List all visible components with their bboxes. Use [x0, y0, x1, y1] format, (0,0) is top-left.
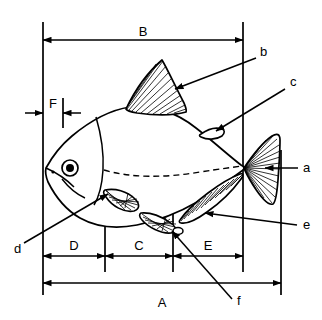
fish-measurement-diagram: B F D C E A a b c d e f	[0, 0, 322, 320]
fish-eye-pupil	[66, 164, 74, 172]
dimension-D: D	[43, 238, 105, 256]
figure-canvas: B F D C E A a b c d e f	[0, 0, 322, 320]
fish-nostril	[51, 170, 54, 173]
dimension-F: F	[25, 96, 81, 113]
caudal-fin	[244, 134, 280, 204]
callout-label-c: c	[290, 74, 297, 89]
callout-label-f: f	[237, 293, 241, 308]
dimension-A-label: A	[158, 295, 167, 310]
callout-label-d: d	[14, 241, 21, 256]
dimension-F-label: F	[49, 96, 57, 111]
dimension-E: E	[173, 238, 243, 256]
callout-label-a: a	[303, 160, 311, 175]
callout-leader-b	[175, 58, 256, 89]
dimension-B-label: B	[139, 24, 148, 39]
dimension-B: B	[43, 24, 243, 40]
dimension-D-label: D	[69, 238, 78, 253]
dimension-C: C	[105, 238, 173, 256]
callout-leader-e	[205, 213, 297, 225]
adipose-fin	[200, 128, 225, 139]
callout-leader-c	[216, 89, 285, 131]
dimension-C-label: C	[134, 238, 143, 253]
callout-label-e: e	[303, 217, 310, 232]
dimension-A: A	[43, 283, 281, 310]
dimension-E-label: E	[204, 238, 213, 253]
fish-illustration	[46, 60, 280, 234]
callout-leader-f	[172, 231, 232, 299]
callout-label-b: b	[260, 44, 267, 59]
